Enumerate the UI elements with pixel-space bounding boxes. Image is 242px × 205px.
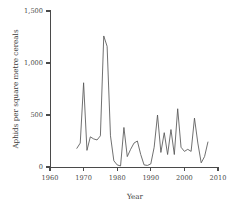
aphid-timeseries-chart: 05001,0001,500 196019701980199020002010 … — [0, 0, 242, 205]
x-tick-label-2010: 2010 — [210, 174, 227, 182]
x-axis-group — [50, 167, 219, 172]
x-axis-title: Year — [126, 192, 144, 201]
y-tick-marks — [46, 11, 51, 167]
y-axis-group — [46, 11, 51, 167]
y-tick-label-0: 0 — [39, 163, 43, 171]
y-tick-label-1500: 1,500 — [24, 7, 43, 15]
chart-figure: 05001,0001,500 196019701980199020002010 … — [0, 0, 242, 205]
x-tick-label-1990: 1990 — [142, 174, 159, 182]
x-tick-label-1980: 1980 — [109, 174, 126, 182]
x-tick-label-1960: 1960 — [42, 174, 59, 182]
x-tick-labels: 196019701980199020002010 — [42, 174, 227, 182]
y-tick-label-500: 500 — [30, 111, 43, 119]
x-tick-label-1970: 1970 — [75, 174, 92, 182]
data-line-aphids — [77, 36, 208, 166]
y-axis-title: Aphids per square metre cereals — [11, 29, 20, 150]
y-tick-label-1000: 1,000 — [24, 59, 43, 67]
y-tick-labels: 05001,0001,500 — [24, 7, 43, 171]
x-tick-label-2000: 2000 — [176, 174, 193, 182]
